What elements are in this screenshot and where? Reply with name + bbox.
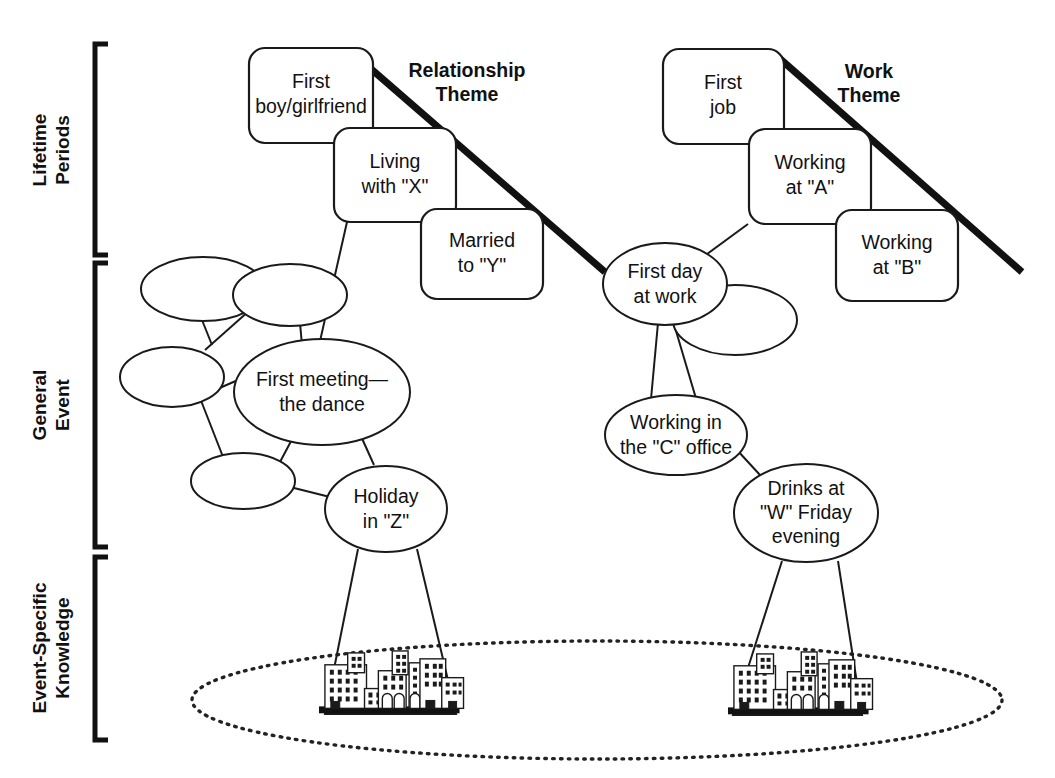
autobiographical-memory-diagram: Lifetime Periods General Event Event-Spe… [0,0,1055,778]
axis-label-lifetime-periods-line2: Periods [52,115,73,185]
married-y-line2: to "Y" [458,254,507,276]
working-c-line1: Working in [630,411,722,433]
first-bf-gf-line1: First [292,70,330,92]
working-a-line1: Working [774,151,845,173]
event-specific-base-ellipse [192,641,1002,759]
first-day-line2: at work [634,285,697,307]
holiday-line1: Holiday [353,485,418,507]
married-y-line1: Married [449,229,515,251]
bracket-event-specific-knowledge [95,557,108,740]
lifetime-box-married-to-y: Married to "Y" [421,209,543,299]
first-meeting-line1: First meeting— [256,368,389,390]
event-specific-knowledge-work [728,561,873,715]
first-job-line1: First [704,71,742,93]
relationship-theme-line1: Relationship [408,59,525,81]
lifetime-box-working-at-b: Working at "B" [836,210,958,301]
general-event-working-in-c-office: Working in the "C" office [605,395,747,475]
first-bf-gf-line2: boy/girlfriend [255,95,367,117]
general-event-first-meeting-the-dance: First meeting— the dance [234,339,410,445]
general-event-first-day-at-work: First day at work [603,243,727,325]
axis-label-event-specific-line2: Knowledge [52,597,73,698]
first-job-line2: job [709,96,736,118]
drinks-line2: "W" Friday [760,501,852,523]
working-c-line2: the "C" office [620,436,732,458]
general-event-ellipse-unlabeled-2 [233,264,347,326]
living-x-line2: with "X" [361,175,429,197]
axis-label-general-event: General Event [29,370,73,441]
living-x-line1: Living [370,150,421,172]
working-b-line2: at "B" [873,256,922,278]
relationship-theme-line2: Theme [436,83,499,105]
axis-bracket-group [95,44,108,740]
first-meeting-line2: the dance [279,393,365,415]
diagram-canvas: Lifetime Periods General Event Event-Spe… [0,0,1055,778]
working-b-line1: Working [861,231,932,253]
general-event-holiday-in-z: Holiday in "Z" [325,466,447,552]
axis-label-event-specific-line1: Event-Specific [29,582,50,713]
first-day-line1: First day [628,260,703,282]
working-a-line2: at "A" [786,176,835,198]
general-event-ellipse-unlabeled-4 [191,453,295,509]
axis-label-general-event-line2: Event [52,378,73,430]
holiday-line2: in "Z" [363,510,409,532]
cityscape-relationship [319,651,464,713]
axis-label-lifetime-periods: Lifetime Periods [29,114,73,187]
drinks-line1: Drinks at [768,477,846,499]
theme-label-relationship: Relationship Theme [408,59,525,105]
theme-label-work: Work Theme [838,60,901,106]
bracket-lifetime-periods [95,44,108,255]
drinks-line3: evening [772,525,840,547]
axis-label-event-specific-knowledge: Event-Specific Knowledge [29,582,73,713]
work-theme-line2: Theme [838,84,901,106]
work-theme-line1: Work [845,60,894,82]
axis-label-lifetime-periods-line1: Lifetime [29,114,50,187]
event-specific-knowledge-relationship [319,549,464,714]
axis-label-general-event-line1: General [29,370,50,441]
general-event-drinks-at-w: Drinks at "W" Friday evening [734,464,878,562]
bracket-general-event [95,263,108,547]
general-event-ellipse-unlabeled-3 [120,347,224,407]
